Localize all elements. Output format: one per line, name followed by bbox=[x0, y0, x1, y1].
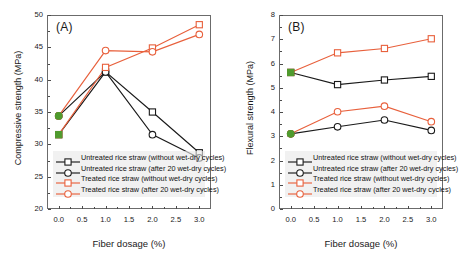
legend-item[interactable]: Treated rice straw (without wet-dry cycl… bbox=[287, 174, 434, 185]
legend-label: Treated rice straw (without wet-dry cycl… bbox=[81, 174, 217, 184]
y-tick-label: 1 bbox=[254, 180, 275, 189]
y-tick bbox=[280, 39, 283, 40]
data-point-marker bbox=[334, 123, 341, 130]
x-tick bbox=[129, 206, 130, 209]
figure-container: (A) Compressive strength (MPa) Fiber dos… bbox=[0, 0, 463, 261]
x-tick-minor bbox=[396, 207, 397, 209]
x-tick-minor bbox=[141, 207, 142, 209]
x-tick bbox=[408, 206, 409, 209]
y-tick-minor bbox=[280, 51, 282, 52]
x-tick bbox=[431, 206, 432, 209]
series-line bbox=[59, 25, 200, 135]
legend-circle-icon bbox=[55, 185, 81, 195]
data-point-marker bbox=[428, 73, 434, 79]
series-line bbox=[291, 120, 432, 134]
x-tick bbox=[59, 206, 60, 209]
data-point-marker bbox=[334, 50, 340, 56]
x-tick-minor bbox=[117, 207, 118, 209]
data-point-marker bbox=[149, 109, 155, 115]
x-tick bbox=[384, 206, 385, 209]
y-tick-minor bbox=[48, 31, 50, 32]
y-tick-label: 40 bbox=[18, 75, 43, 84]
x-tick-label: 3.0 bbox=[185, 215, 213, 224]
data-point-marker bbox=[56, 132, 62, 138]
data-point-marker bbox=[149, 49, 156, 56]
legend-a: Untreated rice straw (without wet-dry cy… bbox=[53, 151, 205, 197]
y-tick-label: 50 bbox=[18, 10, 43, 19]
y-tick-minor bbox=[48, 161, 50, 162]
y-tick-label: 30 bbox=[18, 139, 43, 148]
data-point-marker bbox=[334, 108, 341, 115]
y-tick bbox=[280, 161, 283, 162]
data-point-marker bbox=[381, 77, 387, 83]
x-tick bbox=[314, 206, 315, 209]
y-tick bbox=[280, 64, 283, 65]
y-tick-minor bbox=[280, 100, 282, 101]
data-point-marker bbox=[149, 131, 156, 138]
legend-item[interactable]: Untreated rice straw (without wet-dry cy… bbox=[287, 153, 434, 164]
y-tick-minor bbox=[280, 27, 282, 28]
legend-square-icon bbox=[287, 153, 313, 163]
y-tick-minor bbox=[48, 193, 50, 194]
data-point-marker bbox=[196, 22, 202, 28]
y-tick bbox=[280, 112, 283, 113]
data-point-marker bbox=[381, 45, 387, 51]
y-tick bbox=[280, 209, 283, 210]
x-tick bbox=[338, 206, 339, 209]
legend-item[interactable]: Untreated rice straw (without wet-dry cy… bbox=[55, 153, 202, 164]
legend-item[interactable]: Treated rice straw (without wet-dry cycl… bbox=[55, 174, 202, 185]
data-point-marker bbox=[334, 81, 340, 87]
y-tick-minor bbox=[48, 64, 50, 65]
y-tick-label: 35 bbox=[18, 107, 43, 116]
y-tick-label: 7 bbox=[254, 34, 275, 43]
x-tick bbox=[199, 206, 200, 209]
y-tick-label: 8 bbox=[254, 10, 275, 19]
panel-a: (A) Compressive strength (MPa) Fiber dos… bbox=[0, 0, 231, 261]
series-line bbox=[291, 72, 432, 84]
y-tick bbox=[48, 144, 51, 145]
y-tick-minor bbox=[280, 148, 282, 149]
y-tick-minor bbox=[280, 124, 282, 125]
y-tick-minor bbox=[48, 96, 50, 97]
data-point-marker bbox=[428, 118, 435, 125]
legend-square-icon bbox=[55, 153, 81, 163]
data-point-marker bbox=[381, 103, 388, 110]
data-point-marker bbox=[102, 64, 108, 70]
x-tick bbox=[82, 206, 83, 209]
legend-item[interactable]: Treated rice straw (after 20 wet-dry cyc… bbox=[55, 185, 202, 196]
legend-b: Untreated rice straw (without wet-dry cy… bbox=[285, 151, 437, 197]
series-line bbox=[59, 72, 200, 158]
legend-item[interactable]: Untreated rice straw (after 20 wet-dry c… bbox=[55, 164, 202, 175]
legend-circle-icon bbox=[55, 164, 81, 174]
y-tick bbox=[48, 112, 51, 113]
legend-label: Untreated rice straw (after 20 wet-dry c… bbox=[313, 164, 458, 174]
x-tick-minor bbox=[188, 207, 189, 209]
legend-item[interactable]: Untreated rice straw (after 20 wet-dry c… bbox=[287, 164, 434, 175]
y-tick-label: 0 bbox=[254, 204, 275, 213]
legend-label: Treated rice straw (after 20 wet-dry cyc… bbox=[81, 185, 219, 195]
y-tick-label: 6 bbox=[254, 59, 275, 68]
data-point-marker bbox=[288, 69, 294, 75]
data-point-marker bbox=[102, 47, 109, 54]
y-tick bbox=[280, 136, 283, 137]
data-point-marker bbox=[55, 113, 62, 120]
legend-item[interactable]: Treated rice straw (after 20 wet-dry cyc… bbox=[287, 185, 434, 196]
y-tick bbox=[48, 47, 51, 48]
data-point-marker bbox=[428, 127, 435, 134]
data-point-marker bbox=[65, 190, 72, 197]
panel-b: (B) Flexural strength (MPa) Fiber dosage… bbox=[232, 0, 463, 261]
x-tick-minor bbox=[326, 207, 327, 209]
x-tick-minor bbox=[164, 207, 165, 209]
x-tick-minor bbox=[302, 207, 303, 209]
data-point-marker bbox=[381, 117, 388, 124]
y-tick bbox=[280, 185, 283, 186]
x-tick-minor bbox=[349, 207, 350, 209]
y-tick-label: 4 bbox=[254, 107, 275, 116]
data-point-marker bbox=[196, 31, 203, 38]
y-tick bbox=[280, 15, 283, 16]
series-line bbox=[291, 106, 432, 134]
x-tick-minor bbox=[94, 207, 95, 209]
y-tick-label: 5 bbox=[254, 83, 275, 92]
legend-square-icon bbox=[55, 174, 81, 184]
y-tick bbox=[48, 177, 51, 178]
